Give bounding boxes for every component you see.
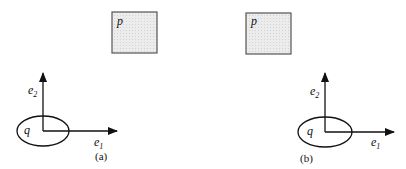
diagram: p q e2 e1 (a) p q e2 e1 (b) <box>0 0 406 169</box>
axis-e2-label: e2 <box>28 83 37 99</box>
axis-e1-label: e1 <box>371 135 380 151</box>
axis-e1-label: e1 <box>94 135 103 151</box>
box-label: p <box>116 14 123 28</box>
axis-e2-label: e2 <box>310 84 319 100</box>
box-label: p <box>250 14 257 28</box>
panel-caption: (a) <box>95 150 108 163</box>
panel-b: p q e2 e1 (b) <box>246 13 394 165</box>
ellipse-label: q <box>24 123 30 137</box>
ellipse-label: q <box>307 124 313 138</box>
panel-caption: (b) <box>300 152 313 165</box>
panel-a: p q e2 e1 (a) <box>17 12 157 163</box>
